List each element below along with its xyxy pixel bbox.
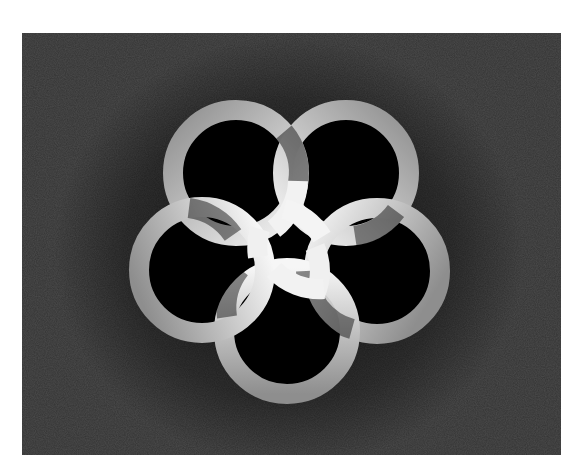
dark-background-frame (22, 33, 561, 455)
rings-graphic (22, 33, 561, 455)
